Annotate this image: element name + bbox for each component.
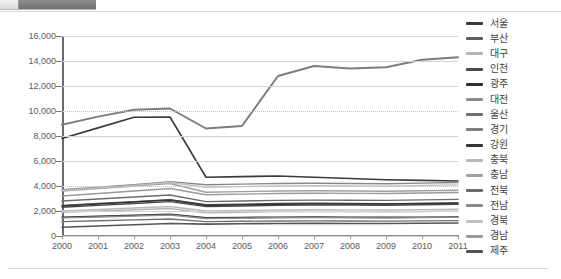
legend-item-label: 전북 [490,186,508,196]
y-axis-tick-label: 12,000 [28,81,56,91]
legend-swatch-icon [466,174,483,177]
legend-item[interactable]: 전남 [466,198,558,213]
legend-item-label: 대전 [490,95,508,105]
legend-item[interactable]: 경남 [466,229,558,244]
y-axis-tick-label: 6,000 [33,156,56,166]
legend-item[interactable]: 인천 [466,62,558,77]
bottom-divider [8,268,548,269]
legend-swatch-icon [466,68,483,71]
legend-item-label: 부산 [490,34,508,44]
x-axis-tick-label: 2000 [52,241,72,251]
y-axis-tick-label: 2,000 [33,206,56,216]
legend-item[interactable]: 부산 [466,31,558,46]
chart-legend: 서울부산대구인천광주대전울산경기강원충북충남전북전남경북경남제주 [466,16,558,259]
legend-item-label: 충남 [490,170,508,180]
legend-swatch-icon [466,189,483,192]
legend-swatch-icon [466,235,483,238]
x-axis-tick-mark [422,235,423,239]
legend-item[interactable]: 충남 [466,168,558,183]
legend-item[interactable]: 경기 [466,122,558,137]
gridline [62,211,458,212]
y-axis-tick-mark [56,136,62,137]
x-axis-tick-mark [278,235,279,239]
x-axis-tick-mark [350,235,351,239]
y-axis-tick-mark [56,211,62,212]
y-axis-tick-mark [56,61,62,62]
x-axis-tick-label: 2005 [232,241,252,251]
legend-item[interactable]: 강원 [466,138,558,153]
series-line [62,219,458,222]
legend-item-label: 경남 [490,231,508,241]
x-axis-tick-label: 2007 [304,241,324,251]
x-axis-tick-mark [206,235,207,239]
gridline [62,61,458,62]
legend-item[interactable]: 경북 [466,213,558,228]
x-axis-tick-label: 2010 [412,241,432,251]
x-axis-tick-mark [62,235,63,239]
x-axis-tick-mark [458,235,459,239]
toolbar-fragment-cell [0,0,19,9]
series-line [62,184,458,193]
gridline [62,236,458,237]
legend-item-label: 울산 [490,110,508,120]
legend-item-label: 충북 [490,155,508,165]
y-axis-tick-label: 4,000 [33,181,56,191]
x-axis-tick-label: 2001 [88,241,108,251]
x-axis-tick-label: 2009 [376,241,396,251]
legend-item-label: 경북 [490,216,508,226]
y-axis-tick-mark [56,236,62,237]
y-axis-tick-label: 14,000 [28,56,56,66]
legend-swatch-icon [466,98,483,101]
gridline [62,36,458,37]
toolbar-fragment [0,0,96,10]
y-axis-tick-mark [56,161,62,162]
gridline [62,186,458,187]
legend-swatch-icon [466,220,483,223]
legend-item-label: 제주 [490,246,508,256]
top-divider [0,11,561,12]
series-line [62,117,458,181]
y-axis-tick-mark [56,86,62,87]
gridline [62,111,458,112]
legend-swatch-icon [466,22,483,25]
legend-item[interactable]: 대구 [466,46,558,61]
series-line [62,57,458,128]
x-axis-tick-label: 2011 [448,241,467,251]
legend-item[interactable]: 제주 [466,244,558,259]
series-line [62,189,458,197]
x-axis-tick-mark [386,235,387,239]
gridline [62,161,458,162]
legend-item[interactable]: 울산 [466,107,558,122]
gridline [62,136,458,137]
legend-item[interactable]: 충북 [466,153,558,168]
legend-swatch-icon [466,83,483,86]
y-axis-labels: 02,0004,0006,0008,00010,00012,00014,0001… [0,36,56,236]
legend-item-label: 전남 [490,201,508,211]
plot-area [62,36,458,236]
legend-item-label: 광주 [490,79,508,89]
legend-item-label: 서울 [490,19,508,29]
legend-item[interactable]: 서울 [466,16,558,31]
legend-swatch-icon [466,159,483,162]
series-line [62,223,458,227]
legend-swatch-icon [466,113,483,116]
legend-item-label: 인천 [490,64,508,74]
x-axis-tick-label: 2003 [160,241,180,251]
legend-swatch-icon [466,204,483,207]
legend-item-label: 대구 [490,49,508,59]
x-axis-tick-mark [242,235,243,239]
x-axis-tick-label: 2004 [196,241,216,251]
y-axis-tick-mark [56,111,62,112]
legend-item[interactable]: 전북 [466,183,558,198]
x-axis-tick-label: 2002 [124,241,144,251]
x-axis-tick-mark [170,235,171,239]
legend-item-label: 강원 [490,140,508,150]
legend-item[interactable]: 대전 [466,92,558,107]
series-line [62,195,458,202]
y-axis-tick-label: 16,000 [28,31,56,41]
x-axis-tick-label: 2006 [268,241,288,251]
legend-item[interactable]: 광주 [466,77,558,92]
chart-page: 02,0004,0006,0008,00010,00012,00014,0001… [0,0,561,279]
y-axis-tick-mark [56,36,62,37]
x-axis-labels: 2000200120022003200420052006200720082009… [62,239,458,257]
